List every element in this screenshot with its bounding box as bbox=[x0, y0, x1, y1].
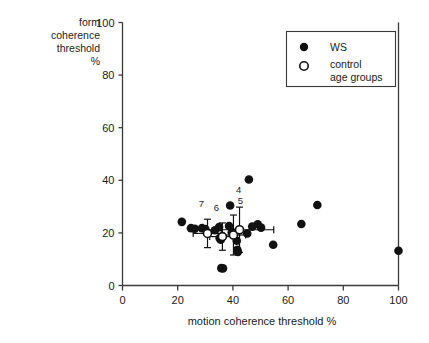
ws-point-10 bbox=[219, 264, 228, 273]
x-tick-label-80: 80 bbox=[337, 294, 349, 306]
age-group-label-6: 6 bbox=[214, 202, 219, 213]
y-tick-label-20: 20 bbox=[102, 227, 114, 239]
ws-data-points bbox=[178, 175, 403, 272]
ws-point-24 bbox=[297, 220, 306, 229]
y-tick-label-60: 60 bbox=[102, 122, 114, 134]
ws-point-23 bbox=[269, 240, 278, 249]
age-group-label-4: 4 bbox=[236, 184, 241, 195]
control-point-group-6 bbox=[218, 233, 226, 241]
x-axis-ticks: 020406080100 bbox=[119, 286, 407, 306]
control-point-group-4 bbox=[236, 226, 244, 234]
y-axis-title-line-3: threshold bbox=[57, 42, 100, 54]
ws-point-12 bbox=[226, 201, 235, 210]
chart-canvas: form coherence threshold % 020406080100 … bbox=[0, 0, 429, 343]
x-tick-label-40: 40 bbox=[227, 294, 239, 306]
ws-point-22 bbox=[257, 223, 266, 232]
x-tick-label-60: 60 bbox=[282, 294, 294, 306]
y-tick-label-80: 80 bbox=[102, 69, 114, 81]
y-tick-label-100: 100 bbox=[96, 17, 114, 29]
ws-point-0 bbox=[178, 218, 187, 227]
y-axis-title-line-2: coherence bbox=[51, 29, 100, 41]
y-axis-title-line-4: % bbox=[91, 55, 100, 67]
x-tick-label-20: 20 bbox=[172, 294, 184, 306]
age-group-labels: 7654 bbox=[199, 184, 243, 213]
legend-label-control-line-1: control bbox=[330, 58, 362, 70]
scatter-plot-figure: form coherence threshold % 020406080100 … bbox=[0, 0, 429, 343]
ws-point-17 bbox=[234, 248, 243, 257]
legend-label-ws: WS bbox=[330, 41, 347, 53]
age-group-label-7: 7 bbox=[199, 198, 204, 209]
legend: WS control age groups bbox=[287, 32, 396, 87]
x-tick-label-0: 0 bbox=[119, 294, 125, 306]
x-tick-label-100: 100 bbox=[389, 294, 407, 306]
control-point-group-7 bbox=[204, 229, 212, 237]
legend-label-control-line-2: age groups bbox=[330, 71, 383, 83]
ws-point-25 bbox=[313, 201, 322, 210]
y-axis-ticks: 020406080100 bbox=[96, 17, 122, 292]
legend-marker-control bbox=[300, 62, 308, 70]
age-group-label-5: 5 bbox=[238, 195, 243, 206]
y-tick-label-0: 0 bbox=[108, 280, 114, 292]
ws-point-6 bbox=[215, 223, 224, 232]
ws-point-18 bbox=[245, 175, 254, 184]
y-tick-label-40: 40 bbox=[102, 174, 114, 186]
legend-marker-ws bbox=[300, 43, 308, 51]
ws-point-26 bbox=[394, 246, 403, 255]
x-axis-title: motion coherence threshold % bbox=[188, 315, 337, 327]
y-axis-title: form coherence threshold % bbox=[51, 16, 100, 67]
